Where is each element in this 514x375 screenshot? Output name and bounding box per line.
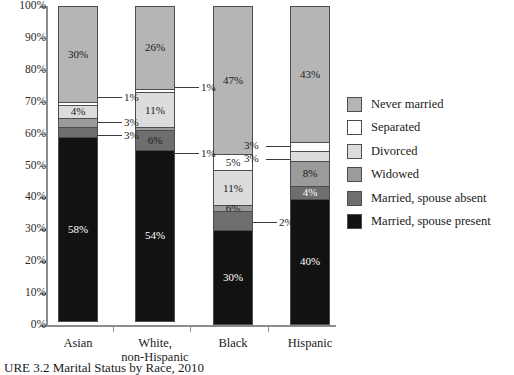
stacked-bar-asian[interactable]: 30%4%58%	[58, 6, 98, 325]
legend-item-label: Married, spouse absent	[371, 192, 487, 205]
bar-segment[interactable]	[213, 211, 253, 230]
callout-asian-widowed: 3%	[124, 117, 139, 128]
legend-item-label: Widowed	[371, 168, 419, 181]
legend-swatch-icon	[347, 167, 362, 182]
bar-segment-value: 43%	[300, 69, 320, 80]
y-axis-tick-label: 90%	[8, 32, 46, 44]
legend-swatch-icon	[347, 214, 362, 229]
leader-line	[98, 97, 122, 98]
bar-segment-value: 5%	[226, 157, 241, 168]
y-axis-tick-label: 70%	[8, 96, 46, 108]
bar-segment-value: 11%	[223, 183, 243, 194]
bar-segment[interactable]	[58, 127, 98, 137]
bar-segment[interactable]: 11%	[213, 170, 253, 205]
legend-swatch-icon	[347, 97, 362, 112]
bar-segment-value: 58%	[68, 224, 88, 235]
bar-segment-value: 30%	[223, 272, 243, 283]
bar-segment[interactable]: 47%	[213, 6, 253, 154]
y-axis-tick-label: 10%	[8, 287, 46, 299]
y-axis-tick-label: 50%	[8, 160, 46, 172]
y-axis-tick-label: 80%	[8, 64, 46, 76]
legend-item[interactable]: Married, spouse present	[347, 212, 491, 232]
bar-segment-value: 54%	[145, 230, 165, 241]
legend-item-label: Married, spouse present	[371, 215, 491, 228]
bar-segment[interactable]: 4%	[58, 105, 98, 118]
callout-white-separated: 1%	[201, 82, 216, 93]
figure-caption: URE 3.2 Marital Status by Race, 2010	[4, 361, 204, 375]
callout-white-widowed: 1%	[201, 148, 216, 159]
bar-segment-value: 4%	[71, 106, 86, 117]
callout-hispanic-divorced: 3%	[244, 153, 259, 164]
stacked-bar-white[interactable]: 26%11%6%54%	[135, 6, 175, 325]
leader-line	[266, 159, 290, 160]
legend-item[interactable]: Divorced	[347, 141, 491, 161]
legend-item-label: Separated	[371, 121, 420, 134]
bar-segment[interactable]: 11%	[135, 92, 175, 127]
bar-segment[interactable]: 26%	[135, 6, 175, 89]
legend-item[interactable]: Widowed	[347, 165, 491, 185]
legend-item-label: Divorced	[371, 145, 418, 158]
y-axis-tick-label: 30%	[8, 223, 46, 235]
category-label-line1: Hispanic	[262, 336, 358, 350]
bar-segment[interactable]	[290, 142, 330, 151]
legend-item-label: Never married	[371, 98, 444, 111]
category-label-hispanic: Hispanic	[262, 336, 358, 350]
stacked-bar-black[interactable]: 47%5%11%6%30%	[213, 6, 253, 325]
bar-segment[interactable]: 8%	[290, 161, 330, 186]
bar-segment-value: 26%	[145, 42, 165, 53]
y-axis-tick-label: 40%	[8, 191, 46, 203]
callout-black-absent: 2%	[279, 217, 294, 228]
y-axis-tick-label: 0%	[8, 319, 46, 331]
x-axis-separator	[268, 325, 269, 332]
bar-segment[interactable]: 58%	[58, 137, 98, 322]
legend-item[interactable]: Never married	[347, 94, 491, 114]
bar-segment[interactable]: 40%	[290, 199, 330, 325]
bar-segment[interactable]: 6%	[135, 130, 175, 149]
legend-swatch-icon	[347, 144, 362, 159]
bar-segment-value: 30%	[68, 49, 88, 60]
bar-segment-value: 6%	[148, 135, 163, 146]
leader-line	[175, 153, 199, 154]
leader-line	[175, 87, 199, 88]
x-axis-separator	[190, 325, 191, 332]
chart-legend: Never marriedSeparatedDivorcedWidowedMar…	[347, 94, 491, 235]
bar-segment[interactable]	[58, 118, 98, 128]
stacked-bar-hispanic[interactable]: 43%8%4%40%	[290, 6, 330, 325]
bar-segment[interactable]: 30%	[58, 6, 98, 102]
leader-line	[253, 222, 277, 223]
bar-segment[interactable]: 4%	[290, 186, 330, 199]
bar-segment-value: 11%	[145, 105, 165, 116]
y-axis-line	[46, 6, 48, 326]
leader-line	[98, 122, 122, 123]
bar-segment-value: 40%	[300, 256, 320, 267]
bar-segment-value: 47%	[223, 75, 243, 86]
legend-item[interactable]: Separated	[347, 118, 491, 138]
x-axis-separator	[113, 325, 114, 332]
callout-asian-absent: 3%	[124, 130, 139, 141]
y-axis-tick-label: 60%	[8, 128, 46, 140]
legend-item[interactable]: Married, spouse absent	[347, 188, 491, 208]
y-axis-tick-label: 20%	[8, 255, 46, 267]
legend-swatch-icon	[347, 191, 362, 206]
bar-segment-value: 8%	[303, 168, 318, 179]
bar-segment[interactable]: 54%	[135, 150, 175, 322]
bar-segment[interactable]	[290, 151, 330, 160]
bar-segment-value: 4%	[303, 187, 318, 198]
bar-segment[interactable]: 30%	[213, 230, 253, 325]
legend-swatch-icon	[347, 120, 362, 135]
callout-hispanic-separated: 3%	[244, 140, 259, 151]
leader-line	[98, 135, 122, 136]
callout-asian-separated: 1%	[124, 92, 139, 103]
bar-segment[interactable]: 43%	[290, 6, 330, 142]
y-axis-tick-label: 100%	[8, 0, 46, 12]
leader-line	[266, 146, 290, 147]
